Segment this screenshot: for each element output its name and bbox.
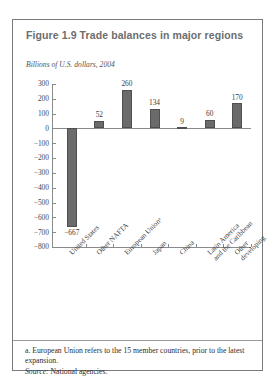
footnote-text: a. European Union refers to the 15 membe… xyxy=(25,346,251,365)
bar-value-label: 134 xyxy=(135,98,175,107)
y-axis-tick-label: −800 xyxy=(34,242,49,251)
y-axis-tick xyxy=(53,173,56,174)
y-axis-tick xyxy=(53,84,56,85)
footnote-divider xyxy=(13,340,262,341)
y-axis-tick-label: −400 xyxy=(34,183,49,192)
bar-chart-plot: 3002001000−100−200−300−400−500−600−700−8… xyxy=(13,20,264,372)
source-line: Source: National agencies. xyxy=(25,367,251,377)
figure-card: Figure 1.9 Trade balances in major regio… xyxy=(12,19,263,371)
bar xyxy=(205,120,215,129)
bar xyxy=(94,121,104,129)
y-axis-tick-label: −300 xyxy=(34,168,49,177)
source-text: National agencies. xyxy=(49,367,108,376)
bar xyxy=(122,90,132,129)
y-axis-tick xyxy=(53,143,56,144)
y-axis-tick xyxy=(53,114,56,115)
y-axis-tick xyxy=(53,217,56,218)
y-axis-tick xyxy=(53,203,56,204)
bar-value-label: 260 xyxy=(107,79,147,88)
footnote-block: a. European Union refers to the 15 membe… xyxy=(25,346,251,377)
y-axis-tick xyxy=(53,158,56,159)
y-axis-tick-label: −100 xyxy=(34,139,49,148)
bar-value-label: 170 xyxy=(217,93,257,102)
y-axis-tick-label: −700 xyxy=(34,228,49,237)
bar-value-label: 52 xyxy=(79,110,119,119)
y-axis-tick-label: −500 xyxy=(34,198,49,207)
y-axis-tick xyxy=(53,188,56,189)
y-axis-line xyxy=(52,84,53,247)
y-axis-tick xyxy=(53,247,56,248)
y-axis-tick-label: 300 xyxy=(38,79,49,88)
y-axis-tick-label: 0 xyxy=(45,124,49,133)
y-axis-tick-label: 100 xyxy=(38,109,49,118)
y-axis-tick-label: −200 xyxy=(34,153,49,162)
x-axis-category-label: Japan xyxy=(151,239,169,257)
source-label: Source: xyxy=(25,367,49,376)
bar xyxy=(67,128,77,227)
bar xyxy=(177,127,187,129)
y-axis-tick-label: 200 xyxy=(38,94,49,103)
bar-value-label: 60 xyxy=(190,109,230,118)
y-axis-tick xyxy=(53,128,56,129)
bar xyxy=(150,109,160,129)
zero-baseline xyxy=(52,128,251,129)
bar xyxy=(232,103,242,128)
y-axis-tick xyxy=(53,99,56,100)
y-axis-tick-label: −600 xyxy=(34,213,49,222)
